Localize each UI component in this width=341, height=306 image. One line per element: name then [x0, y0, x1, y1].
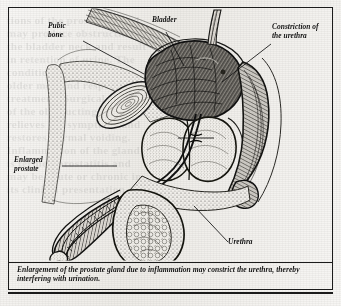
figure-caption: Enlargement of the prostate gland due to…	[17, 265, 327, 284]
figure-bottom-rule	[8, 292, 333, 294]
label-bladder: Bladder	[152, 16, 177, 25]
label-urethra: Urethra	[228, 238, 253, 247]
label-pubic-bone: Pubic bone	[48, 22, 66, 39]
figure-frame	[8, 7, 333, 290]
label-enlarged-prostate: Enlarged prostate	[14, 156, 43, 173]
label-constriction: Constriction of the urethra	[272, 23, 319, 40]
caption-top-rule	[8, 262, 333, 263]
